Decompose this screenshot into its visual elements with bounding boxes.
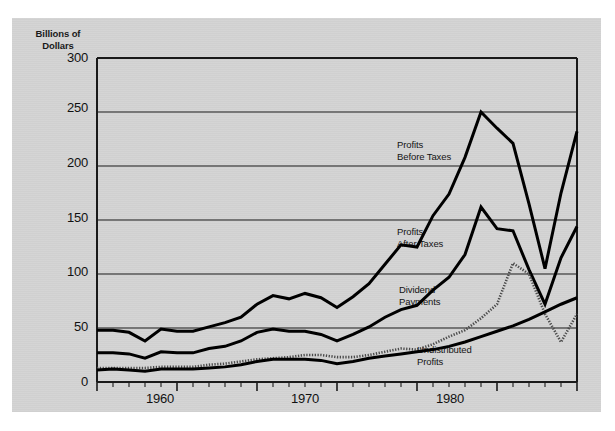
x-axis-ticks: [97, 382, 577, 391]
data-series: [97, 112, 577, 371]
chart-plot-svg: [0, 0, 615, 431]
gridlines: [97, 58, 577, 382]
chart-figure: Billions of Dollars 300 250 200 150 100 …: [0, 0, 615, 431]
series-line-profits-before-taxes: [97, 112, 577, 341]
